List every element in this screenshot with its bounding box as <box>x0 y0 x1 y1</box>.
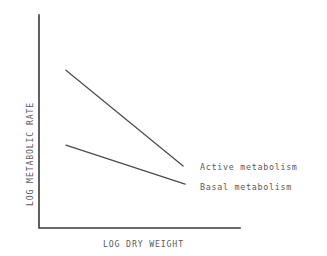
metabolic-rate-chart: LOG METABOLIC RATE LOG DRY WEIGHT Active… <box>0 0 327 256</box>
axis-spine <box>39 15 240 228</box>
y-axis-label: LOG METABOLIC RATE <box>26 102 34 206</box>
series-label-basal-metabolism: Basal metabolism <box>200 183 292 191</box>
plot-area <box>0 0 327 256</box>
x-axis-label: LOG DRY WEIGHT <box>103 240 184 248</box>
series-line-active-metabolism <box>66 70 183 166</box>
series-line-basal-metabolism <box>66 145 185 184</box>
series-label-active-metabolism: Active metabolism <box>200 163 298 171</box>
